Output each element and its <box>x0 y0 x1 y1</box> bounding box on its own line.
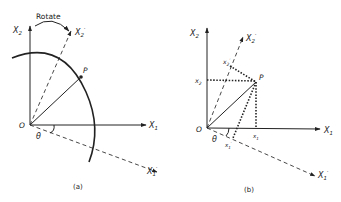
x2-projection-label: x2 <box>194 77 202 86</box>
point-p-a <box>79 75 83 79</box>
caption-b: (b) <box>244 186 254 194</box>
x2-prime-axis-a <box>30 31 71 125</box>
panel-a: Rotate X2 X2′ P O θ X1 X1′ (a) <box>12 12 158 191</box>
rotate-arrow-icon <box>35 21 69 31</box>
rotation-diagram: Rotate X2 X2′ P O θ X1 X1′ (a) X2 X2′ x2… <box>0 0 341 202</box>
x2-prime-label-b: X2′ <box>245 33 257 44</box>
origin-label-a: O <box>19 121 25 130</box>
projection-x2-prime <box>230 66 256 82</box>
x1-prime-label-a: X1′ <box>146 166 158 177</box>
x1-prime-axis-b <box>207 128 315 176</box>
origin-label-b: O <box>196 125 202 134</box>
op-vector-b <box>207 82 256 128</box>
theta-arc-b <box>226 128 229 136</box>
x1-axis-b <box>207 128 320 129</box>
x2-label-b: X2 <box>189 29 199 39</box>
op-vector-a <box>30 77 81 125</box>
point-p-label-b: P <box>259 73 264 82</box>
x1-prime-projection-label: x1′ <box>224 141 232 150</box>
x1-label-b: X1 <box>323 126 333 136</box>
theta-arc-a <box>50 125 54 133</box>
theta-label-b: θ <box>212 135 217 144</box>
x1-label-a: X1 <box>148 121 158 131</box>
theta-label-a: θ <box>36 132 41 141</box>
x2-prime-label-a: X2′ <box>74 27 86 38</box>
caption-a: (a) <box>73 183 83 191</box>
rotate-label: Rotate <box>36 12 61 21</box>
projection-x2 <box>207 80 256 81</box>
x2-prime-projection-label: x2′ <box>222 58 230 67</box>
projection-x1-prime <box>233 82 256 138</box>
point-p-label-a: P <box>83 66 88 75</box>
x2-prime-axis-b <box>207 37 243 128</box>
x1-prime-label-b: X1′ <box>317 170 329 181</box>
x1-projection-label: x1 <box>252 133 259 141</box>
panel-b: X2 X2′ x2′ x2 P O θ x1 x1′ X1 X1′ (b) <box>189 28 333 194</box>
x2-label-a: X2 <box>12 26 22 36</box>
